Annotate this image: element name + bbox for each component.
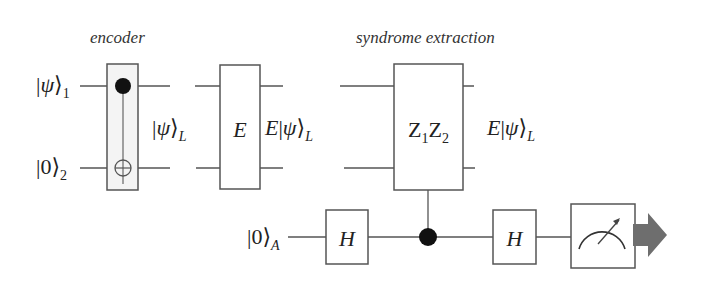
after-syndrome-label: E|ψ⟩L — [487, 117, 535, 144]
logical-state-label: |ψ⟩L — [152, 117, 186, 144]
control-dot-icon — [115, 78, 131, 94]
stabilizer-gate-label: Z1Z2 — [394, 117, 463, 147]
input-qubit1-label: |ψ⟩1 — [36, 74, 70, 101]
input-qubit2-label: |0⟩2 — [36, 156, 67, 183]
encoder-title: encoder — [90, 28, 145, 48]
ancilla-control-dot-icon — [419, 228, 437, 246]
syndrome-title: syndrome extraction — [356, 28, 495, 48]
output-arrow-icon — [633, 213, 667, 257]
hadamard-gate-2-label: H — [493, 226, 536, 252]
error-gate-label: E — [220, 117, 260, 143]
hadamard-gate-1-label: H — [326, 226, 368, 252]
after-error-label: E|ψ⟩L — [265, 117, 313, 144]
measurement-box[interactable] — [571, 204, 635, 268]
input-ancilla-label: |0⟩A — [247, 226, 280, 253]
